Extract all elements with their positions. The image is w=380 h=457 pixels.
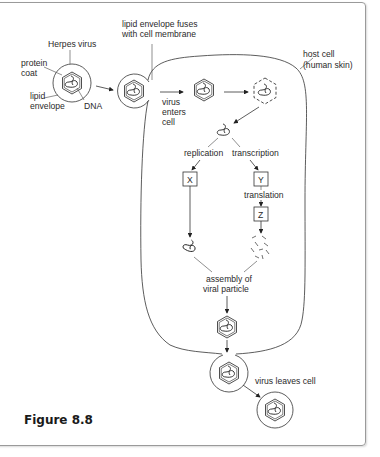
box-z-label: Z — [258, 210, 263, 220]
label-lipid-envelope: lipid — [30, 91, 46, 101]
label-protein-coat: protein — [21, 58, 47, 68]
fusing-virus-icon — [118, 74, 149, 108]
replicated-dna-icon — [182, 238, 197, 253]
herpes-virus-icon — [53, 64, 91, 102]
label-herpes-virus: Herpes virus — [48, 39, 96, 49]
label-host-cell: host cell — [303, 49, 335, 59]
assembled-capsid-icon — [218, 316, 237, 338]
label-virus-enters-3: cell — [162, 117, 175, 127]
uncoating-capsid-icon — [254, 78, 276, 104]
label-virus-leaves: virus leaves cell — [255, 376, 316, 386]
budding-virus-icon — [210, 355, 248, 392]
viral-dna-icon — [217, 124, 229, 135]
label-virus-enters: virus — [162, 97, 180, 107]
capsid-in-cell-icon — [195, 79, 214, 101]
label-replication: replication — [184, 148, 223, 158]
label-lipid-envelope-2: envelope — [30, 101, 65, 111]
virus-cycle-diagram: Herpes virus protein coat lipid envelope… — [0, 0, 380, 457]
label-assembly-2: viral particle — [203, 284, 249, 294]
released-virus-icon — [257, 392, 293, 428]
figure-caption: Figure 8.8 — [24, 413, 93, 427]
label-dna: DNA — [84, 101, 102, 111]
label-assembly: assembly of — [206, 274, 252, 284]
label-fuses: lipid envelope fuses — [122, 19, 198, 29]
protein-fragments-icon — [251, 236, 269, 259]
box-y-label: Y — [258, 175, 264, 185]
box-x-label: X — [187, 175, 193, 185]
label-virus-enters-2: enters — [162, 107, 186, 117]
label-fuses-2: with cell membrane — [121, 29, 196, 39]
label-translation: translation — [244, 190, 284, 200]
label-protein-coat-2: coat — [21, 68, 38, 78]
label-host-cell-2: (human skin) — [303, 60, 353, 70]
label-transcription: transcription — [232, 148, 279, 158]
